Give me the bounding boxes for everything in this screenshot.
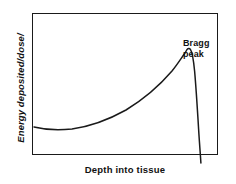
depth-dose-curve: [34, 48, 201, 163]
bragg-peak-chart: Energy deposited/dose/ Depth into tissue…: [0, 0, 236, 184]
curve-layer: [32, 13, 218, 165]
x-axis-label: Depth into tissue: [32, 164, 218, 175]
bragg-peak-annotation-line2: peak: [183, 49, 210, 60]
y-axis-label: Energy deposited/dose/: [15, 33, 26, 142]
bragg-peak-annotation: Bragg peak: [183, 38, 210, 59]
bragg-peak-annotation-line1: Bragg: [183, 38, 210, 49]
